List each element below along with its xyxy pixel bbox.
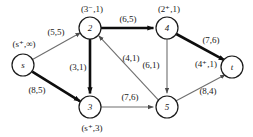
node-label-s: s	[21, 61, 25, 70]
flow-network-diagram: s 2 3 4 5 t (s⁺,∞) (3⁻,1) (s⁺,3) (2⁺,1) …	[0, 0, 253, 137]
edge-label-4-t: (7,6)	[202, 36, 219, 45]
node-state-label-s: (s⁺,∞)	[12, 40, 35, 49]
edge-s-2	[33, 33, 81, 60]
edge-label-3-5: (7,6)	[121, 93, 138, 102]
node-label-5: 5	[165, 103, 170, 112]
node-state-label-4: (2⁺,1)	[158, 5, 180, 14]
node-label-4: 4	[165, 24, 170, 33]
node-state-label-2: (3⁻,1)	[81, 5, 103, 14]
edge-label-2-4: (6,5)	[119, 15, 136, 24]
edge-label-2-3: (3,1)	[69, 63, 86, 72]
node-label-2: 2	[88, 24, 93, 33]
node-label-3: 3	[88, 103, 93, 112]
node-state-label-3: (s⁺,3)	[81, 124, 102, 133]
edge-label-5-t: (8,4)	[199, 87, 216, 96]
edge-label-s-3: (8,5)	[28, 86, 45, 95]
edge-label-5-2: (4,1)	[122, 54, 139, 63]
edge-label-s-2: (5,5)	[47, 28, 64, 37]
node-state-label-t: (4⁺,1)	[195, 60, 217, 69]
node-label-t: t	[231, 63, 234, 72]
edge-label-4-5: (6,1)	[142, 61, 159, 70]
